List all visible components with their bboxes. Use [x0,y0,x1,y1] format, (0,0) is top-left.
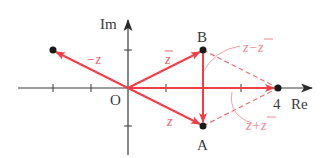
complex-plane-diagram: Im Re O 4 B A −z z z z−z z+z [0,0,328,158]
label-z: z [166,114,173,129]
point-A-label: A [197,137,208,153]
point-B [200,47,207,54]
real-axis-label: Re [291,96,308,112]
point-B-label: B [197,29,207,45]
label-z-plus-z-conj: z+z [245,117,276,133]
svg-text:z: z [164,52,171,67]
point-A [200,123,207,130]
svg-text:z+z: z+z [245,118,267,133]
imag-axis-label: Im [100,16,117,32]
point-4 [275,85,282,92]
label-z-conj: z [164,51,173,67]
vector-z-conj [128,52,200,88]
tick-label-4: 4 [273,96,281,112]
vector-z [128,88,200,124]
label-z-minus-z-conj: z−z [242,39,273,55]
label-neg-z: −z [86,52,101,67]
origin-label: O [110,92,121,108]
point-neg-z [50,47,57,54]
svg-text:z−z: z−z [242,40,264,55]
